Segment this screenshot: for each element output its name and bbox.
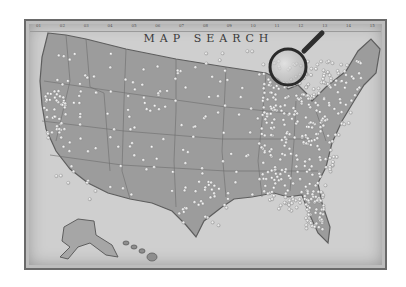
us-map: [26, 21, 387, 270]
hawaii-shape: [123, 241, 157, 261]
map-title: MAP SEARCH: [26, 32, 385, 45]
alaska-shape: [60, 219, 118, 259]
map-frame: 01 02 03 04 05 06 07 08 09 10 11 12 13 1…: [24, 19, 387, 270]
